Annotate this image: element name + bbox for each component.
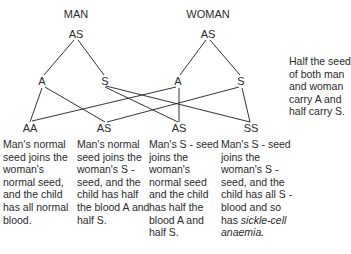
child-desc-ss-text: Man's S - seed joins the woman's S - see… bbox=[221, 138, 292, 226]
man-genotype: AS bbox=[69, 28, 84, 40]
man-seed-a: A bbox=[38, 75, 45, 87]
child-genotype-aa: AA bbox=[23, 122, 38, 134]
child-desc-aa: Man's normal seed joins the woman's norm… bbox=[3, 138, 77, 226]
side-note: Half the seed of both man and woman carr… bbox=[289, 55, 351, 118]
child-genotype-ss: SS bbox=[244, 122, 259, 134]
woman-title: WOMAN bbox=[186, 8, 229, 20]
child-desc-ss: Man's S - seed joins the woman's S - see… bbox=[221, 138, 293, 239]
child-desc-as-2: Man's S - seed joins the woman's normal … bbox=[149, 138, 223, 239]
child-genotype-as-1: AS bbox=[97, 122, 112, 134]
child-desc-as-1: Man's normal seed joins the woman's S - … bbox=[77, 138, 151, 226]
woman-seed-a: A bbox=[174, 75, 181, 87]
woman-seed-s: S bbox=[237, 75, 244, 87]
man-title: MAN bbox=[64, 8, 88, 20]
child-genotype-as-2: AS bbox=[172, 122, 187, 134]
man-seed-s: S bbox=[101, 75, 108, 87]
woman-genotype: AS bbox=[201, 28, 216, 40]
